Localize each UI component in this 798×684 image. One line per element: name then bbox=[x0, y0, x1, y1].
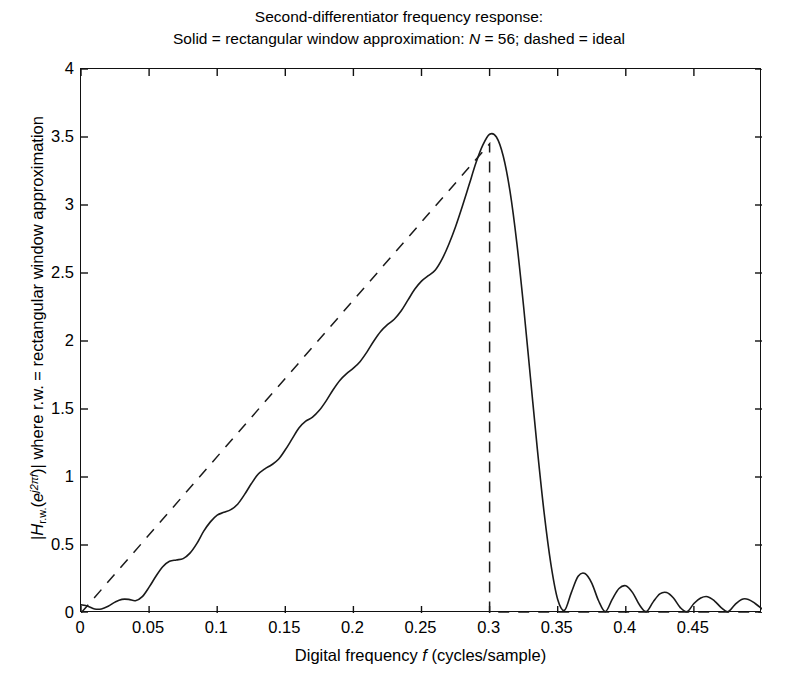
axis-tick-marks bbox=[81, 69, 762, 613]
chart-subtitle-prefix: Solid = rectangular window approximation… bbox=[173, 30, 469, 47]
figure-second-differentiator-frequency-response: Second-differentiator frequency response… bbox=[0, 0, 798, 684]
y-label-rest: where r.w. = rectangular window approxim… bbox=[28, 116, 46, 464]
y-axis-label-rotator: |Hr.w.(ej2πf)| where r.w. = rectangular … bbox=[26, 28, 50, 628]
chart-subtitle-suffix: = 56; dashed = ideal bbox=[480, 30, 625, 47]
chart-canvas bbox=[81, 69, 762, 613]
y-tick-label-0: 0 bbox=[65, 603, 74, 622]
chart-title-line1: Second-differentiator frequency response… bbox=[0, 6, 798, 28]
y-label-paren-close: ) bbox=[28, 468, 46, 474]
chart-title-line2: Solid = rectangular window approximation… bbox=[0, 28, 798, 50]
x-tick-label-0_2: 0.2 bbox=[341, 618, 364, 637]
x-axis-label: Digital frequency f (cycles/sample) bbox=[80, 646, 761, 665]
x-tick-label-0: 0 bbox=[75, 618, 84, 637]
x-axis-label-prefix: Digital frequency bbox=[295, 646, 422, 664]
y-tick-label-1: 1 bbox=[65, 467, 74, 486]
y-tick-label-0_5: 0.5 bbox=[51, 535, 74, 554]
y-tick-label-1_5: 1.5 bbox=[51, 399, 74, 418]
y-axis-label: |Hr.w.(ej2πf)| where r.w. = rectangular … bbox=[28, 116, 48, 540]
y-tick-label-4: 4 bbox=[65, 59, 74, 78]
y-tick-label-3: 3 bbox=[65, 195, 74, 214]
x-tick-label-0_15: 0.15 bbox=[268, 618, 300, 637]
x-tick-label-0_1: 0.1 bbox=[205, 618, 228, 637]
y-label-subscript-rw: r.w. bbox=[36, 507, 48, 523]
y-tick-label-2: 2 bbox=[65, 331, 74, 350]
x-tick-label-0_25: 0.25 bbox=[404, 618, 436, 637]
y-label-paren-open: ( bbox=[28, 502, 46, 508]
x-tick-label-0_3: 0.3 bbox=[477, 618, 500, 637]
chart-subtitle-symbol-N: N bbox=[469, 30, 480, 47]
y-label-exponent: j2πf bbox=[28, 474, 40, 493]
series-line-rectangular-window-approximation bbox=[81, 134, 762, 612]
y-tick-label-2_5: 2.5 bbox=[51, 263, 74, 282]
x-axis-tick-labels: 00.050.10.150.20.250.30.350.40.45 bbox=[80, 618, 761, 642]
chart-title-block: Second-differentiator frequency response… bbox=[0, 6, 798, 50]
y-tick-label-3_5: 3.5 bbox=[51, 127, 74, 146]
y-label-symbol-H: H bbox=[28, 524, 46, 536]
plot-area bbox=[80, 68, 761, 612]
y-label-bar-open: | bbox=[28, 536, 46, 540]
x-tick-label-0_35: 0.35 bbox=[541, 618, 573, 637]
y-label-bar-close: | bbox=[28, 464, 46, 468]
x-tick-label-0_4: 0.4 bbox=[613, 618, 636, 637]
x-tick-label-0_05: 0.05 bbox=[132, 618, 164, 637]
x-axis-label-suffix: (cycles/sample) bbox=[427, 646, 546, 664]
x-tick-label-0_45: 0.45 bbox=[677, 618, 709, 637]
y-label-symbol-e: e bbox=[28, 493, 46, 502]
series-line-ideal bbox=[81, 144, 762, 613]
